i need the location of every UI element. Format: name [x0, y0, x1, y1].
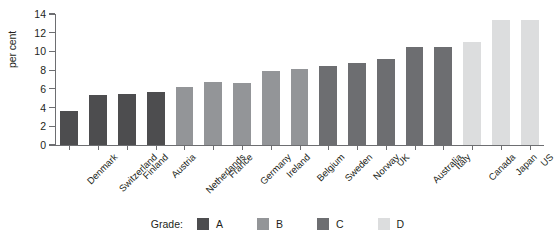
x-axis-label: Canada	[487, 152, 518, 183]
bar	[348, 63, 366, 145]
x-axis-label: Denmark	[86, 152, 120, 186]
legend-label: A	[216, 218, 223, 230]
bar	[434, 47, 452, 145]
x-axis-labels: DenmarkSwitzerlandFinlandAustriaNetherla…	[0, 150, 555, 205]
legend-item: A	[197, 218, 223, 230]
legend-item: D	[378, 218, 405, 230]
bars-layer	[55, 14, 544, 145]
bar	[521, 20, 539, 145]
legend-swatch	[257, 218, 269, 230]
y-axis-tick-label: 6	[26, 84, 46, 94]
bar	[118, 94, 136, 145]
y-axis-tick-label: 12	[26, 28, 46, 38]
y-axis-tick-label: 4	[26, 103, 46, 113]
bar	[176, 87, 194, 145]
bar-chart: per cent 02468101214 DenmarkSwitzerlandF…	[0, 0, 555, 250]
bar	[60, 111, 78, 145]
y-axis-title: per cent	[6, 8, 22, 68]
chart-legend: Grade: ABCD	[0, 215, 555, 233]
bar	[291, 69, 309, 145]
x-axis-label: Belgium	[315, 152, 346, 183]
bar	[147, 92, 165, 145]
legend-item: B	[257, 218, 283, 230]
bar	[204, 82, 222, 145]
x-axis-label: Sweden	[343, 152, 374, 183]
y-axis-tick-label: 14	[26, 9, 46, 19]
legend-label: B	[276, 218, 283, 230]
legend-swatch	[197, 218, 209, 230]
bar	[406, 47, 424, 145]
x-axis-label: France	[227, 152, 255, 180]
bar	[377, 59, 395, 145]
y-axis-tick-label: 0	[26, 140, 46, 150]
legend-items: ABCD	[197, 218, 404, 230]
legend-label: C	[336, 218, 344, 230]
legend-swatch	[378, 218, 390, 230]
x-axis-label: Austria	[169, 152, 197, 180]
legend-title: Grade:	[151, 218, 183, 230]
bar	[262, 71, 280, 145]
bar	[492, 20, 510, 145]
x-axis-label: US	[538, 152, 554, 168]
bar	[233, 83, 251, 145]
y-axis-tick-label: 8	[26, 65, 46, 75]
legend-label: D	[397, 218, 405, 230]
bar	[463, 42, 481, 145]
legend-item: C	[317, 218, 344, 230]
y-axis-tick-label: 10	[26, 46, 46, 56]
bar	[89, 95, 107, 145]
legend-swatch	[317, 218, 329, 230]
bar	[319, 66, 337, 145]
x-axis-label: Japan	[513, 152, 538, 177]
y-axis-tick-label: 2	[26, 121, 46, 131]
